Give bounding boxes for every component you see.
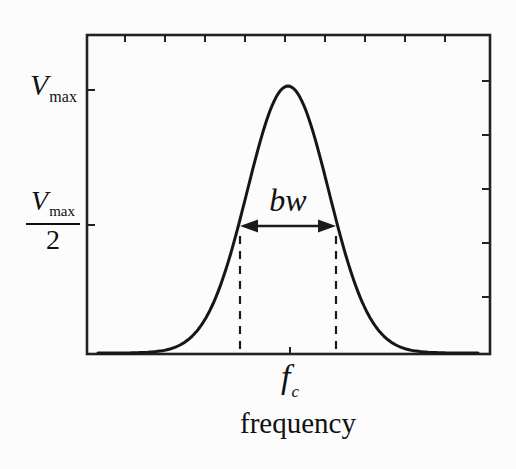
y-tick-label-vmax: Vmax [30, 68, 77, 102]
vmax-symbol: V [30, 68, 48, 101]
vhalf-numerator-symbol: V [31, 185, 48, 216]
x-axis-title: frequency [236, 407, 360, 440]
y-tick-label-vmax-over-2: Vmax 2 [26, 186, 80, 254]
vhalf-denominator: 2 [26, 226, 80, 254]
bw-arrowhead-left-icon [240, 220, 258, 233]
fc-symbol: f [281, 358, 290, 395]
vhalf-numerator-subscript: max [49, 203, 75, 219]
vmax-subscript: max [49, 88, 77, 105]
bw-arrow [240, 220, 336, 233]
bandwidth-label: bw [256, 182, 320, 219]
bw-arrowhead-right-icon [318, 220, 336, 233]
fc-subscript: c [291, 382, 299, 401]
figure-canvas: Vmax Vmax 2 bw fc frequency [0, 0, 516, 469]
x-tick-label-fc: fc [281, 358, 299, 396]
vhalf-numerator: Vmax [26, 186, 80, 220]
resonance-curve [98, 86, 478, 353]
